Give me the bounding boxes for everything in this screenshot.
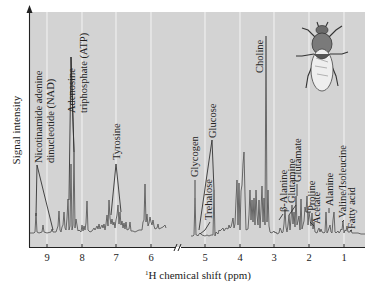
label-atp-line1: Adenosine [66, 68, 77, 113]
label-choline: Choline [254, 39, 265, 73]
label-glucose: Glucose [207, 103, 218, 138]
label-nad-line2: dinucleotide (NAD) [45, 78, 57, 163]
label-trehalose: Trehalose [203, 179, 214, 220]
label-acetate: Acetate [311, 192, 322, 224]
label-atp-line2: triphosphate (ATP) [78, 32, 90, 113]
tick-label-6: 6 [148, 252, 153, 263]
tick-label-4: 4 [237, 252, 243, 263]
x-axis-title: 1H chemical shift (ppm) [145, 269, 251, 282]
label-glutamate: Glutamate [292, 138, 303, 182]
tick-label-1: 1 [341, 252, 346, 263]
label-glycogen: Glycogen [189, 135, 200, 177]
label-alanine: Alanine [324, 172, 335, 206]
y-axis-arrow-icon [27, 5, 33, 13]
tick-label-3: 3 [271, 252, 276, 263]
tick-label-5: 5 [202, 252, 207, 263]
tick-label-9: 9 [44, 252, 49, 263]
nmr-spectrum-chart: 9 8 7 6 5 4 3 2 1 1H chemical shift (ppm… [0, 0, 371, 287]
tick-label-8: 8 [79, 252, 84, 263]
label-fatty-acid: Fatty acid [346, 187, 357, 229]
y-axis-title: Signal intensity [10, 95, 22, 164]
label-tyrosine: Tyrosine [111, 123, 122, 160]
tick-label-2: 2 [306, 252, 311, 263]
label-nad-line1: Nicotinamide adenine [33, 70, 44, 163]
tick-label-7: 7 [113, 252, 118, 263]
